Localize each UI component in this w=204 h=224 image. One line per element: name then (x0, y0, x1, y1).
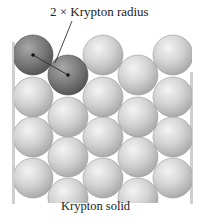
krypton-atom (153, 158, 193, 198)
krypton-atom (13, 158, 53, 198)
krypton-atom (48, 137, 88, 177)
krypton-atom (13, 77, 53, 117)
krypton-atom (83, 35, 123, 75)
center-dot (66, 73, 70, 77)
krypton-atom (153, 77, 193, 117)
krypton-atom (83, 77, 123, 117)
radius-label: 2 × Krypton radius (50, 4, 149, 20)
center-dot (31, 53, 35, 57)
krypton-atom (13, 117, 53, 157)
krypton-atom (118, 97, 158, 137)
krypton-atom (48, 97, 88, 137)
krypton-atom (83, 117, 123, 157)
krypton-atom (118, 137, 158, 177)
krypton-atom (118, 55, 158, 95)
sphere-packing-figure (0, 0, 204, 224)
krypton-atom (83, 158, 123, 198)
krypton-atoms (13, 35, 193, 218)
krypton-atom (153, 117, 193, 157)
caption-label: Krypton solid (61, 199, 130, 214)
krypton-atom (153, 35, 193, 75)
krypton-solid-diagram: 2 × Krypton radius Krypton solid (0, 0, 204, 224)
